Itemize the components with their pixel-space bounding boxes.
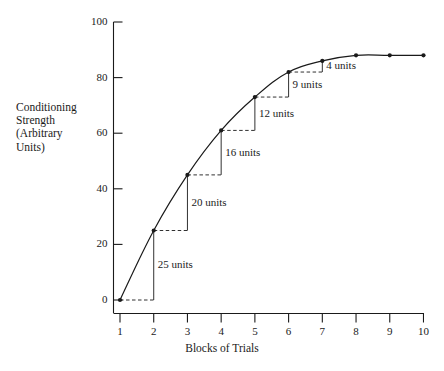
y-axis-ticks — [114, 22, 123, 300]
y-tick-label: 0 — [82, 293, 108, 305]
x-axis-title: Blocks of Trials — [0, 342, 444, 355]
data-point-marker — [320, 59, 324, 63]
data-point-marker — [287, 70, 291, 74]
data-point-marker — [388, 53, 392, 57]
data-point-marker — [253, 95, 257, 99]
conditioning-curve-figure: Conditioning Strength (Arbitrary Units) … — [0, 0, 444, 371]
data-point-marker — [152, 228, 156, 232]
step-delta-label: 12 units — [259, 107, 294, 119]
data-point-marker — [118, 298, 122, 302]
step-delta-label: 9 units — [293, 78, 323, 90]
x-tick-label: 4 — [209, 325, 233, 337]
x-tick-label: 8 — [344, 325, 368, 337]
x-tick-label: 1 — [108, 325, 132, 337]
x-tick-label: 2 — [142, 325, 166, 337]
data-point-marker — [421, 53, 425, 57]
y-tick-label: 80 — [82, 71, 108, 83]
y-tick-label: 60 — [82, 126, 108, 138]
y-axis-title: Conditioning Strength (Arbitrary Units) — [16, 101, 77, 154]
step-delta-label: 20 units — [191, 196, 226, 208]
data-point-marker — [219, 128, 223, 132]
y-tick-label: 40 — [82, 182, 108, 194]
x-tick-label: 3 — [175, 325, 199, 337]
step-delta-label: 4 units — [326, 59, 356, 71]
y-tick-label: 20 — [82, 237, 108, 249]
x-tick-label: 9 — [378, 325, 402, 337]
x-tick-label: 10 — [411, 325, 435, 337]
y-tick-label: 100 — [82, 15, 108, 27]
data-point-marker — [354, 53, 358, 57]
x-tick-label: 5 — [243, 325, 267, 337]
step-delta-label: 25 units — [158, 258, 193, 270]
x-axis-ticks — [120, 314, 423, 323]
step-delta-label: 16 units — [225, 146, 260, 158]
data-point-marker — [185, 173, 189, 177]
x-tick-label: 7 — [310, 325, 334, 337]
plot-area — [0, 0, 444, 371]
x-tick-label: 6 — [277, 325, 301, 337]
step-annotation-brackets — [120, 61, 322, 300]
